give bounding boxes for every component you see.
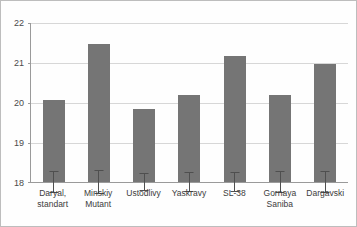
x-axis-label: Ustodlivy bbox=[121, 185, 166, 199]
x-axis-label: SL-38 bbox=[212, 185, 257, 199]
error-bar-cap-top bbox=[49, 171, 58, 172]
x-axis-label: Daryal,standart bbox=[30, 185, 75, 210]
x-axis-label-line2: standart bbox=[30, 199, 75, 210]
x-axis-label-line1: Ustodlivy bbox=[126, 188, 160, 198]
bar[interactable] bbox=[269, 95, 291, 182]
x-axis-label-line1: SL-38 bbox=[223, 188, 246, 198]
x-axis-label: MinskiyMutant bbox=[75, 185, 120, 210]
bar-slot bbox=[257, 23, 302, 182]
bar-slot bbox=[212, 23, 257, 182]
error-bar-cap-top bbox=[276, 171, 285, 172]
error-bar-cap-top bbox=[230, 172, 239, 173]
bar-slot bbox=[76, 23, 121, 182]
error-bar-cap-top bbox=[321, 171, 330, 172]
bar-slot bbox=[303, 23, 348, 182]
x-axis-label: Dargavski bbox=[303, 185, 348, 199]
bar-chart-figure: 22 21 20 19 18 Daryal,standartMinskiyMut… bbox=[0, 0, 357, 227]
bar-group bbox=[31, 23, 348, 182]
bar-slot bbox=[122, 23, 167, 182]
bar[interactable] bbox=[88, 44, 110, 182]
y-tick-label-18: 18 bbox=[2, 179, 24, 188]
x-axis-label: GornayaSaniba bbox=[257, 185, 302, 210]
x-axis-label-line2: Mutant bbox=[75, 199, 120, 210]
bar[interactable] bbox=[178, 95, 200, 182]
bar[interactable] bbox=[43, 100, 65, 182]
bar-slot bbox=[167, 23, 212, 182]
plot-area bbox=[30, 23, 348, 183]
bar-slot bbox=[31, 23, 76, 182]
y-tick-label-22: 22 bbox=[2, 19, 24, 28]
bar[interactable] bbox=[224, 56, 246, 182]
x-axis-label-line1: Daryal, bbox=[39, 188, 66, 198]
y-tick-label-20: 20 bbox=[2, 99, 24, 108]
y-tick-label-21: 21 bbox=[2, 59, 24, 68]
y-tick-label-19: 19 bbox=[2, 139, 24, 148]
x-axis-label-line1: Gornaya bbox=[264, 188, 297, 198]
x-axis-label-line1: Dargavski bbox=[306, 188, 344, 198]
x-axis-label-line2: Saniba bbox=[257, 199, 302, 210]
error-bar-cap-top bbox=[185, 172, 194, 173]
bar[interactable] bbox=[314, 64, 336, 182]
error-bar-cap-top bbox=[140, 173, 149, 174]
bar[interactable] bbox=[133, 109, 155, 182]
error-bar-cap-top bbox=[94, 170, 103, 171]
x-axis-labels: Daryal,standartMinskiyMutantUstodlivyYas… bbox=[30, 185, 348, 210]
x-axis-label-line1: Yaskravy bbox=[172, 188, 206, 198]
x-axis-label: Yaskravy bbox=[166, 185, 211, 199]
y-tick-mark-18 bbox=[28, 182, 31, 183]
x-axis-label-line1: Minskiy bbox=[84, 188, 112, 198]
